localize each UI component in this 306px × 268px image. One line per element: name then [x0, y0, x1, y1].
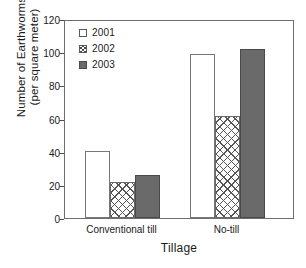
bar-chart-figure: Number of Earthworms (per square meter) … — [0, 0, 306, 268]
bar-no-till-2002 — [215, 116, 240, 218]
bar-conventional-till-2001 — [85, 151, 110, 218]
legend: 2001 2002 2003 — [79, 27, 115, 70]
legend-item-2002: 2002 — [79, 43, 115, 54]
y-tick-label-120: 120 — [43, 15, 60, 26]
x-category-label-conventional-till: Conventional till — [86, 224, 157, 235]
legend-item-2003: 2003 — [79, 59, 115, 70]
bar-no-till-2001 — [190, 54, 215, 218]
legend-swatch-solid-gray-icon — [79, 61, 87, 69]
legend-label-2002: 2002 — [92, 43, 115, 54]
y-axis-title-line-1: Number of Earthworms — [15, 0, 28, 117]
y-tick-label-100: 100 — [43, 48, 60, 59]
plot-inner: 2001 2002 2003 — [65, 21, 293, 218]
legend-swatch-white-icon — [79, 29, 87, 37]
bar-no-till-2003 — [240, 49, 265, 218]
x-axis-title: Tillage — [64, 241, 294, 255]
legend-swatch-crosshatch-icon — [79, 45, 87, 53]
legend-label-2001: 2001 — [92, 27, 115, 38]
legend-label-2003: 2003 — [92, 59, 115, 70]
bar-conventional-till-2003 — [135, 175, 160, 218]
plot-area: 2001 2002 2003 — [64, 20, 294, 219]
bar-conventional-till-2002 — [110, 182, 135, 218]
x-category-label-no-till: No-till — [214, 224, 240, 235]
legend-item-2001: 2001 — [79, 27, 115, 38]
y-axis-tick-labels: 120 100 80 60 40 20 0 — [28, 20, 60, 219]
